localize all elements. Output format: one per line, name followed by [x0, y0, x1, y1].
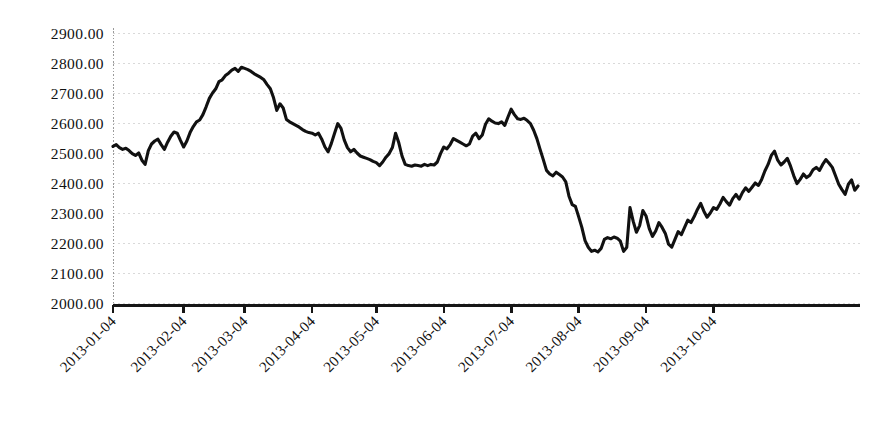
x-tick-label: 2013-01-04 — [57, 313, 119, 375]
y-tick-label: 2600.00 — [51, 115, 104, 132]
x-tick-label: 2013-09-04 — [590, 313, 652, 375]
y-tick-label: 2900.00 — [51, 25, 104, 42]
chart-canvas: 2900.002800.002700.002600.002500.002400.… — [0, 0, 883, 433]
x-tick-label: 2013-04-04 — [256, 313, 318, 375]
x-tick-label: 2013-02-04 — [127, 313, 189, 375]
gridlines-group — [113, 33, 860, 303]
y-tick-label: 2300.00 — [51, 205, 104, 222]
y-tick-label: 2400.00 — [51, 175, 104, 192]
y-tick-label: 2800.00 — [51, 55, 104, 72]
y-tick-label: 2100.00 — [51, 265, 104, 282]
x-tick-label: 2013-07-04 — [455, 313, 517, 375]
x-tick-label: 2013-05-04 — [320, 313, 382, 375]
y-tick-label: 2700.00 — [51, 85, 104, 102]
y-axis-tick-labels: 2900.002800.002700.002600.002500.002400.… — [51, 25, 104, 312]
x-axis-tick-labels: 2013-01-042013-02-042013-03-042013-04-04… — [57, 313, 720, 375]
x-tick-label: 2013-03-04 — [189, 313, 251, 375]
x-tick-label: 2013-06-04 — [388, 313, 450, 375]
series-line-index — [113, 67, 858, 252]
y-tick-label: 2200.00 — [51, 235, 104, 252]
y-tick-label: 2500.00 — [51, 145, 104, 162]
x-tick-label: 2013-10-04 — [657, 313, 719, 375]
y-tick-label: 2000.00 — [51, 295, 104, 312]
x-tick-label: 2013-08-04 — [522, 313, 584, 375]
line-chart: 2900.002800.002700.002600.002500.002400.… — [0, 0, 883, 433]
